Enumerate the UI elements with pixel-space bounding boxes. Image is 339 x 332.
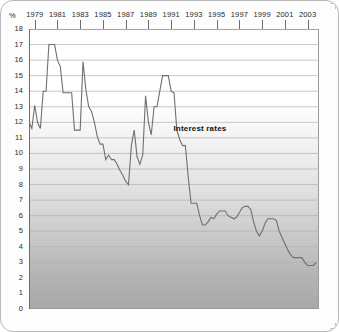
x-tickmark xyxy=(126,20,127,29)
y-tick-label: 5 xyxy=(1,227,23,235)
x-tickmark xyxy=(262,20,263,29)
y-tick-label: 15 xyxy=(1,72,23,80)
y-tick-label: 18 xyxy=(1,25,23,33)
y-tick-label: 14 xyxy=(1,87,23,95)
y-tick-label: 9 xyxy=(1,165,23,173)
y-tick-label: 0 xyxy=(1,305,23,313)
x-tickmark xyxy=(80,20,81,29)
interest-rate-line xyxy=(29,29,319,309)
y-tick-label: 11 xyxy=(1,134,23,142)
x-tickmark xyxy=(194,20,195,29)
x-tickmark xyxy=(217,20,218,29)
x-tickmark xyxy=(285,20,286,29)
x-tickmark xyxy=(239,20,240,29)
y-tick-label: 17 xyxy=(1,41,23,49)
chart-frame: % 19791981198319851987198919911993199519… xyxy=(0,0,339,332)
x-tickmark xyxy=(308,20,309,29)
x-tick-label: 2003 xyxy=(294,11,322,19)
y-tick-label: 1 xyxy=(1,289,23,297)
corner-nick-top-right xyxy=(330,3,336,9)
y-tick-label: 2 xyxy=(1,274,23,282)
y-tick-label: 16 xyxy=(1,56,23,64)
x-tickmark xyxy=(57,20,58,29)
y-tick-label: 7 xyxy=(1,196,23,204)
y-tick-label: 12 xyxy=(1,118,23,126)
series-annotation-label: Interest rates xyxy=(173,124,226,133)
y-tick-label: 10 xyxy=(1,149,23,157)
x-tickmark xyxy=(103,20,104,29)
x-tickmark xyxy=(148,20,149,29)
y-tick-label: 3 xyxy=(1,258,23,266)
x-tickmark xyxy=(35,20,36,29)
y-tick-label: 8 xyxy=(1,181,23,189)
y-tick-label: 13 xyxy=(1,103,23,111)
y-tick-label: 4 xyxy=(1,243,23,251)
x-tickmark xyxy=(171,20,172,29)
plot-area: Interest rates xyxy=(29,29,319,309)
y-axis-unit-label: % xyxy=(9,11,16,20)
y-tick-label: 6 xyxy=(1,212,23,220)
corner-nick-bottom-right xyxy=(330,323,336,329)
